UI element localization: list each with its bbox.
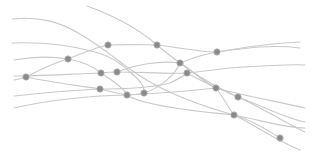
network-node <box>177 60 183 66</box>
network-node <box>154 42 160 48</box>
network-node <box>105 42 111 48</box>
network-node <box>124 92 130 98</box>
curve-line <box>14 57 305 128</box>
curve-line <box>14 65 305 76</box>
network-node <box>277 135 283 141</box>
curve-line <box>14 42 300 96</box>
network-node <box>235 94 241 100</box>
network-node <box>213 85 219 91</box>
network-node <box>114 69 120 75</box>
curve-line <box>87 6 305 132</box>
network-node <box>23 74 29 80</box>
network-diagram <box>0 0 313 155</box>
network-node <box>231 112 237 118</box>
network-node <box>97 86 103 92</box>
network-node <box>214 49 220 55</box>
network-node <box>65 56 71 62</box>
network-node <box>184 70 190 76</box>
curve-line <box>117 62 300 150</box>
network-node <box>98 70 104 76</box>
network-node <box>141 90 147 96</box>
curve-layer <box>12 6 305 150</box>
